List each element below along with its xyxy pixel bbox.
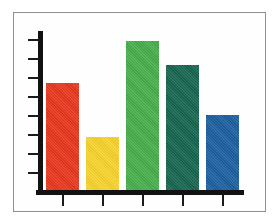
x-axis-tick	[222, 195, 224, 206]
y-axis-tick	[28, 58, 39, 60]
figure-page	[0, 0, 280, 223]
y-axis-tick	[28, 172, 39, 174]
y-axis-tick	[28, 134, 39, 136]
chart-frame	[13, 12, 266, 212]
y-axis-tick	[28, 77, 39, 79]
x-axis-tick	[182, 195, 184, 206]
x-axis-tick	[62, 195, 64, 206]
bar-1[interactable]	[46, 83, 79, 190]
y-axis-line	[38, 31, 43, 195]
x-axis-line	[36, 190, 244, 195]
plot-area	[14, 13, 267, 213]
bar-2[interactable]	[86, 137, 119, 190]
x-axis-tick	[102, 195, 104, 206]
y-axis-tick	[28, 153, 39, 155]
bar-5[interactable]	[206, 115, 239, 190]
bar-3[interactable]	[126, 41, 159, 190]
y-axis-tick	[28, 96, 39, 98]
y-axis-tick	[28, 115, 39, 117]
x-axis-tick	[142, 195, 144, 206]
bar-4[interactable]	[166, 65, 199, 190]
y-axis-tick	[28, 39, 39, 41]
